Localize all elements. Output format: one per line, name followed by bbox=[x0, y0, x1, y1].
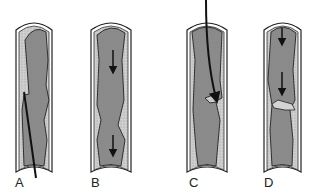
vessel-diagram bbox=[0, 0, 309, 193]
panel-d bbox=[264, 23, 301, 172]
panel-c bbox=[187, 0, 227, 172]
panel-label-d: D bbox=[264, 176, 273, 189]
panel-b bbox=[91, 23, 131, 172]
panel-label-c: C bbox=[189, 176, 198, 189]
panel-a bbox=[16, 23, 52, 178]
panel-label-a: A bbox=[15, 176, 24, 189]
panel-label-b: B bbox=[91, 176, 100, 189]
